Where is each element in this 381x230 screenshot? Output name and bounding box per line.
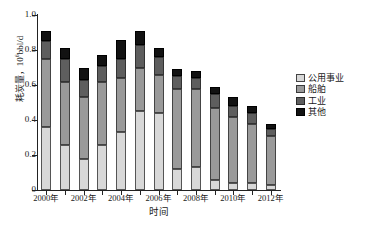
bar-2003年[interactable] — [97, 55, 107, 190]
bar-2002年[interactable] — [79, 68, 89, 191]
legend-item-0[interactable]: 公用事业 — [296, 72, 344, 83]
bar-segment-船舶 — [172, 89, 182, 170]
bar-segment-工业 — [60, 59, 70, 82]
y-axis-tick-mark — [32, 50, 37, 51]
bar-2000年[interactable] — [41, 31, 51, 190]
bar-2011年[interactable] — [247, 106, 257, 190]
bar-segment-工业 — [116, 59, 126, 78]
bar-segment-船舶 — [41, 59, 51, 127]
bar-segment-其他 — [228, 97, 238, 106]
bar-segment-其他 — [247, 106, 257, 113]
bar-segment-其他 — [60, 48, 70, 59]
bar-segment-公用事业 — [210, 180, 220, 191]
legend-item-1[interactable]: 船舶 — [296, 84, 344, 95]
bar-segment-公用事业 — [41, 127, 51, 190]
y-axis-tick-mark — [32, 155, 37, 156]
bar-segment-其他 — [135, 31, 145, 45]
plot-area — [37, 15, 280, 190]
bar-segment-工业 — [210, 94, 220, 108]
bar-segment-公用事业 — [191, 167, 201, 190]
legend-swatch-icon-2 — [296, 97, 305, 105]
y-axis-tick-mark — [32, 85, 37, 86]
bar-segment-船舶 — [60, 82, 70, 145]
bar-segment-公用事业 — [154, 113, 164, 190]
bar-segment-其他 — [41, 31, 51, 42]
bar-2012年[interactable] — [266, 124, 276, 191]
bar-segment-工业 — [172, 76, 182, 88]
bar-segment-公用事业 — [79, 159, 89, 191]
bar-segment-船舶 — [154, 75, 164, 114]
bar-segment-船舶 — [247, 124, 257, 184]
bar-segment-船舶 — [79, 97, 89, 158]
bar-segment-其他 — [97, 55, 107, 66]
bar-segment-公用事业 — [97, 145, 107, 191]
bar-segment-工业 — [41, 41, 51, 59]
bar-segment-其他 — [154, 48, 164, 57]
legend-label-1: 船舶 — [308, 84, 326, 94]
bar-2009年[interactable] — [210, 87, 220, 190]
bar-segment-工业 — [191, 78, 201, 89]
bar-2004年[interactable] — [116, 40, 126, 191]
bar-segment-船舶 — [97, 82, 107, 145]
y-axis-tick-mark — [32, 190, 37, 191]
bar-segment-工业 — [266, 129, 276, 136]
bar-segment-船舶 — [191, 89, 201, 168]
bar-segment-公用事业 — [228, 183, 238, 190]
bar-2007年[interactable] — [172, 69, 182, 190]
bar-segment-工业 — [228, 106, 238, 117]
bar-2005年[interactable] — [135, 31, 145, 190]
bar-segment-公用事业 — [172, 169, 182, 190]
legend-swatch-icon-0 — [296, 74, 305, 82]
bar-segment-公用事业 — [247, 183, 257, 190]
bar-segment-船舶 — [135, 68, 145, 112]
bar-segment-船舶 — [210, 108, 220, 180]
legend-swatch-icon-1 — [296, 85, 305, 93]
y-axis-tick-mark — [32, 120, 37, 121]
bar-segment-其他 — [191, 71, 201, 78]
bar-segment-工业 — [79, 80, 89, 98]
chart-figure: 耗炭量，106bbl/d 00.20.40.60.81.0 时间 公用事业 船舶… — [0, 0, 381, 230]
legend-item-2[interactable]: 工业 — [296, 95, 344, 106]
legend-item-3[interactable]: 其他 — [296, 107, 344, 118]
bar-2001年[interactable] — [60, 48, 70, 190]
bar-segment-工业 — [247, 113, 257, 124]
bar-segment-工业 — [135, 45, 145, 68]
bar-segment-船舶 — [266, 136, 276, 185]
bar-2010年[interactable] — [228, 97, 238, 190]
bar-segment-公用事业 — [116, 132, 126, 190]
chart-legend: 公用事业 船舶 工业 其他 — [296, 72, 344, 118]
x-axis-title: 时间 — [7, 207, 310, 218]
x-axis-tick-label: 2012年 — [248, 193, 294, 203]
legend-label-3: 其他 — [308, 107, 326, 117]
bar-segment-船舶 — [228, 117, 238, 184]
legend-label-0: 公用事业 — [308, 73, 344, 83]
bar-segment-公用事业 — [135, 111, 145, 190]
bar-segment-公用事业 — [266, 185, 276, 190]
bar-segment-其他 — [79, 68, 89, 80]
bar-segment-船舶 — [116, 78, 126, 132]
bar-segment-其他 — [116, 40, 126, 59]
y-axis-tick-mark — [32, 15, 37, 16]
bar-segment-公用事业 — [60, 145, 70, 191]
bar-2006年[interactable] — [154, 48, 164, 190]
legend-label-2: 工业 — [308, 96, 326, 106]
bar-segment-工业 — [154, 57, 164, 75]
legend-swatch-icon-3 — [296, 108, 305, 116]
bar-2008年[interactable] — [191, 71, 201, 190]
bar-segment-其他 — [172, 69, 182, 76]
bar-segment-工业 — [97, 66, 107, 82]
bar-segment-其他 — [210, 87, 220, 94]
